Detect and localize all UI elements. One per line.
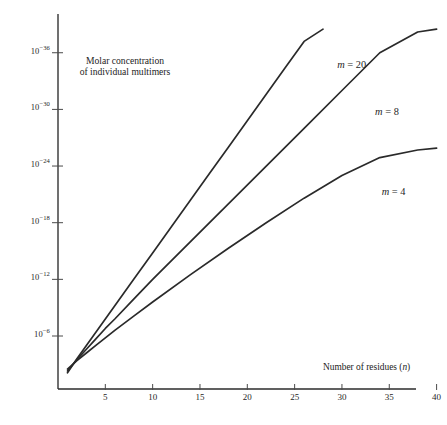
- series-label: m = 20: [337, 59, 366, 71]
- y-tick-mantissa: 10: [34, 329, 43, 339]
- y-tick-label: 10−30: [8, 103, 50, 113]
- x-tick-label: 10: [141, 392, 165, 402]
- figure-container: 10−610−1210−1810−2410−3010−36 5101520253…: [0, 0, 447, 425]
- y-tick-exponent: −6: [43, 327, 50, 334]
- x-tick-label: 30: [330, 392, 354, 402]
- x-tick-label: 35: [377, 392, 401, 402]
- x-axis-title: Number of residues (n): [323, 362, 410, 373]
- chart-caption: Molar concentration of individual multim…: [62, 56, 188, 77]
- x-axis-title-text: Number of residues: [323, 362, 397, 372]
- series-label-value: = 8: [385, 106, 399, 117]
- y-tick-exponent: −30: [39, 101, 50, 108]
- x-axis-title-paren-close: ): [407, 362, 410, 372]
- curve-m8: [67, 29, 436, 371]
- y-tick-exponent: −36: [39, 44, 50, 51]
- y-tick-label: 10−6: [8, 330, 50, 340]
- y-tick-exponent: −18: [39, 214, 50, 221]
- series-label-symbol: m: [337, 59, 345, 70]
- series-label-symbol: m: [382, 186, 390, 197]
- x-tick-label: 20: [235, 392, 259, 402]
- series-label: m = 4: [382, 186, 406, 198]
- x-tick-label: 40: [425, 392, 447, 402]
- y-tick-exponent: −12: [39, 271, 50, 278]
- y-tick-label: 10−24: [8, 160, 50, 170]
- y-tick-label: 10−12: [8, 273, 50, 283]
- x-tick-label: 5: [93, 392, 117, 402]
- y-tick-exponent: −24: [39, 157, 50, 164]
- caption-line-2: of individual multimers: [62, 67, 188, 78]
- y-tick-label: 10−36: [8, 47, 50, 57]
- curve-m20: [67, 29, 323, 373]
- x-tick-label: 25: [283, 392, 307, 402]
- series-label: m = 8: [375, 106, 399, 118]
- y-tick-label: 10−18: [8, 217, 50, 227]
- series-label-value: = 20: [347, 59, 366, 70]
- series-label-symbol: m: [375, 106, 383, 117]
- data-curves: [67, 29, 436, 373]
- x-tick-label: 15: [188, 392, 212, 402]
- series-label-value: = 4: [392, 186, 406, 197]
